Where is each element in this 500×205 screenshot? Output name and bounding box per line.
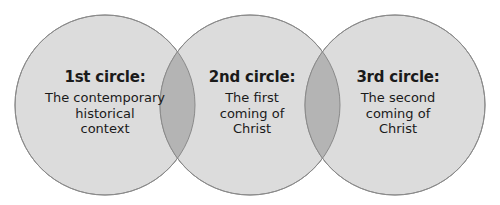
circle-3-description: The second coming of Christ xyxy=(328,90,468,137)
circle-1-label: 1st circle: The contemporary historical … xyxy=(35,68,175,137)
circle-1-description: The contemporary historical context xyxy=(35,90,175,137)
circle-2-title: 2nd circle: xyxy=(182,68,322,86)
circle-3-title: 3rd circle: xyxy=(328,68,468,86)
circle-2-description: The first coming of Christ xyxy=(182,90,322,137)
circle-2-label: 2nd circle: The first coming of Christ xyxy=(182,68,322,137)
circle-1-title: 1st circle: xyxy=(35,68,175,86)
circle-3-label: 3rd circle: The second coming of Christ xyxy=(328,68,468,137)
